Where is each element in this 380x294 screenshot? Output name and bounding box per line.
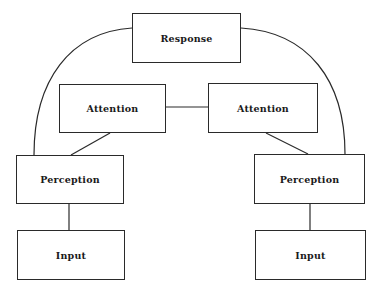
edge-attention-right-to-perception-right: [266, 133, 308, 154]
node-label: Attention: [87, 103, 139, 114]
node-perception-right: Perception: [254, 154, 365, 204]
node-response: Response: [132, 13, 241, 63]
node-attention-right: Attention: [208, 83, 318, 133]
edge-attention-left-to-perception-left: [71, 133, 110, 155]
node-label: Perception: [280, 174, 340, 185]
node-perception-left: Perception: [16, 155, 124, 204]
node-label: Input: [295, 250, 325, 261]
node-attention-left: Attention: [59, 84, 166, 133]
node-label: Perception: [40, 174, 100, 185]
node-input-right: Input: [255, 230, 366, 280]
node-input-left: Input: [17, 230, 125, 280]
node-label: Input: [56, 250, 86, 261]
node-label: Response: [160, 33, 212, 44]
node-label: Attention: [237, 103, 289, 114]
